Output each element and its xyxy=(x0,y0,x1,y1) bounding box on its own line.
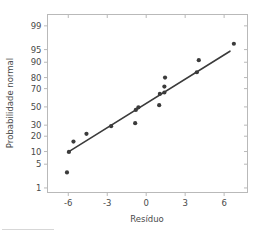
data-point xyxy=(157,103,161,107)
x-tick-label: 3 xyxy=(182,198,187,208)
x-tick-label: 0 xyxy=(143,198,148,208)
plot-canvas: 15102030507080909599 -6-3036 Resíduo Pro… xyxy=(0,0,267,237)
data-point xyxy=(162,90,166,94)
y-tick-label: 5 xyxy=(36,159,41,169)
data-point xyxy=(162,84,166,88)
page-scan-artifact xyxy=(2,229,54,230)
data-point xyxy=(65,170,69,174)
y-axis-title: Probabilidade normal xyxy=(5,58,15,148)
data-point xyxy=(71,139,75,143)
data-point xyxy=(163,75,167,79)
y-tick-label: 90 xyxy=(31,57,42,67)
y-tick-label: 50 xyxy=(31,102,42,112)
x-tick-label: -3 xyxy=(103,198,111,208)
y-tick-label: 80 xyxy=(31,73,42,83)
y-tick-label: 95 xyxy=(31,45,42,55)
data-point xyxy=(109,124,113,128)
data-point xyxy=(195,70,199,74)
normal-probability-plot-figure: 15102030507080909599 -6-3036 Resíduo Pro… xyxy=(0,0,267,237)
data-point xyxy=(84,132,88,136)
y-tick-label: 99 xyxy=(31,21,42,31)
data-point xyxy=(67,150,71,154)
x-tick-label: -6 xyxy=(64,198,72,208)
y-tick-label: 10 xyxy=(31,147,42,157)
data-point xyxy=(136,105,140,109)
y-tick-label: 70 xyxy=(31,84,42,94)
y-tick-label: 1 xyxy=(36,183,41,193)
y-tick-label: 20 xyxy=(31,131,42,141)
y-tick-label: 30 xyxy=(31,120,42,130)
figure-background xyxy=(0,0,267,237)
data-point xyxy=(197,58,201,62)
data-point xyxy=(232,42,236,46)
x-tick-label: 6 xyxy=(221,198,226,208)
x-axis-title: Resíduo xyxy=(130,214,164,224)
data-point xyxy=(158,92,162,96)
data-point xyxy=(133,121,137,125)
